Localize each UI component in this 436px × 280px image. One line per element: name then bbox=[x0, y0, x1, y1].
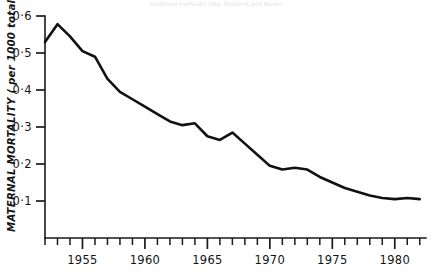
x-tick-label-1955: 1955 bbox=[67, 253, 97, 267]
x-tick-label-1965: 1965 bbox=[192, 253, 222, 267]
y-axis-title-group: MATERNAL MORTALITY ( per 1000 total birt… bbox=[6, 0, 17, 232]
y-axis-ticks bbox=[36, 16, 45, 201]
data-line-maternal-mortality bbox=[45, 24, 420, 199]
x-tick-label-1970: 1970 bbox=[255, 253, 285, 267]
maternal-mortality-figure: maternal mortality rate, England and Wal… bbox=[0, 0, 436, 280]
x-axis-ticks bbox=[45, 238, 420, 249]
x-tick-label-1960: 1960 bbox=[130, 253, 160, 267]
chart-canvas: 0·10·20·30·40·50·6 195519601965197019751… bbox=[0, 0, 436, 280]
y-axis-title: MATERNAL MORTALITY ( per 1000 total birt… bbox=[6, 0, 17, 232]
x-tick-label-1975: 1975 bbox=[317, 253, 347, 267]
x-axis-tick-labels: 195519601965197019751980 bbox=[67, 253, 410, 267]
axes bbox=[45, 16, 426, 238]
x-tick-label-1980: 1980 bbox=[380, 253, 410, 267]
data-series-group bbox=[45, 24, 420, 199]
